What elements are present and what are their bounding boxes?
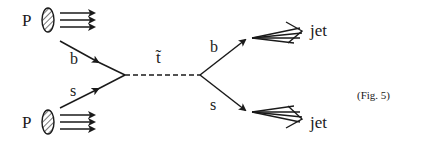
propagator-label: t̃ bbox=[156, 48, 162, 67]
outgoing-quark-bottom-label: s bbox=[210, 96, 216, 113]
proton-bottom-label: P bbox=[22, 113, 31, 132]
incoming-quark-bottom: s bbox=[60, 75, 125, 108]
proton-top-remnant-arrows bbox=[60, 13, 94, 27]
feynman-diagram: P P b s t̃ b s bbox=[0, 0, 426, 147]
proton-bottom: P bbox=[22, 110, 94, 134]
proton-top: P bbox=[22, 8, 94, 32]
proton-bottom-remnant-arrows bbox=[60, 115, 94, 129]
incoming-quark-top: b bbox=[60, 41, 125, 75]
jet-top-icon bbox=[252, 22, 302, 43]
proton-bottom-blob bbox=[42, 110, 54, 134]
figure-caption: (Fig. 5) bbox=[357, 89, 390, 102]
outgoing-quark-bottom: s bbox=[200, 75, 245, 113]
jet-top-label: jet bbox=[309, 21, 327, 40]
outgoing-quark-top-label: b bbox=[210, 38, 218, 55]
stop-propagator: t̃ bbox=[125, 48, 200, 75]
incoming-quark-top-label: b bbox=[70, 50, 78, 67]
proton-top-label: P bbox=[22, 11, 31, 30]
jet-bottom-label: jet bbox=[309, 113, 327, 132]
jet-bottom-icon bbox=[252, 106, 302, 128]
outgoing-quark-top: b bbox=[200, 38, 245, 75]
proton-top-blob bbox=[42, 8, 54, 32]
incoming-quark-bottom-label: s bbox=[70, 82, 76, 99]
